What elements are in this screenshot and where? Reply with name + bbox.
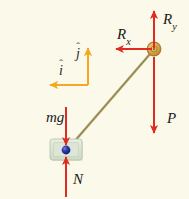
label-i-hat-accent: ˆ — [59, 58, 63, 69]
label-Rx: Rx — [117, 27, 131, 45]
particle-dot — [62, 146, 71, 155]
label-N: N — [73, 172, 83, 187]
label-j-hat: ˆj — [76, 47, 80, 61]
connecting-rod — [67, 54, 150, 150]
label-i-hat: ˆi — [59, 64, 63, 78]
label-j-hat-accent: ˆ — [76, 41, 80, 52]
label-Ry-sub: y — [172, 21, 177, 32]
label-Ry: Ry — [163, 12, 177, 30]
label-mg: mg — [46, 110, 64, 125]
label-P: P — [167, 111, 176, 126]
label-Rx-base: R — [117, 26, 126, 42]
diagram-canvas — [0, 0, 189, 199]
label-Rx-sub: x — [126, 36, 131, 47]
label-Ry-base: R — [163, 11, 172, 27]
free-body-diagram: Ry Rx P mg N ˆi ˆj — [0, 0, 189, 199]
